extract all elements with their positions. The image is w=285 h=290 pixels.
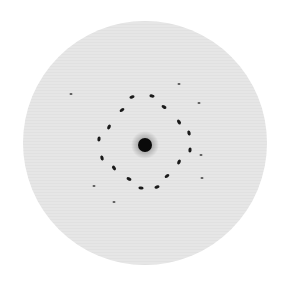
diffraction-pattern-image	[0, 0, 285, 290]
faint-diffraction-spot	[201, 177, 204, 179]
central-beam-spot	[138, 138, 152, 152]
faint-diffraction-spot	[70, 93, 73, 95]
faint-diffraction-spot	[113, 201, 116, 203]
faint-diffraction-spot	[93, 185, 96, 187]
faint-diffraction-spot	[198, 102, 201, 104]
diffraction-pattern-svg	[0, 0, 285, 290]
faint-diffraction-spot	[178, 83, 181, 85]
faint-diffraction-spot	[200, 154, 203, 156]
